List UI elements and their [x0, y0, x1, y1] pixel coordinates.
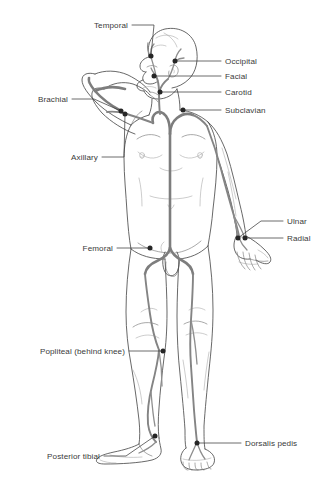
- dot-popliteal: [161, 349, 166, 354]
- dot-occipital: [173, 59, 178, 64]
- dot-ulnar: [236, 236, 241, 241]
- figure-caption: [2, 470, 332, 479]
- label-popliteal: Popliteal (behind knee): [40, 347, 125, 356]
- label-ulnar: Ulnar: [287, 217, 307, 226]
- leader-posterior-tibial: [104, 436, 155, 456]
- label-temporal: Temporal: [94, 21, 128, 30]
- dot-carotid: [158, 90, 163, 95]
- label-occipital: Occipital: [225, 57, 257, 66]
- anatomy-illustration: .o { fill:none; stroke:#4d4d4d; stroke-w…: [0, 0, 333, 479]
- dot-posterior-tibial: [153, 434, 158, 439]
- leader-brachial: [72, 99, 121, 111]
- label-brachial: Brachial: [38, 95, 68, 104]
- label-subclavian: Subclavian: [225, 106, 266, 115]
- dot-radial: [243, 236, 248, 241]
- label-carotid: Carotid: [225, 88, 252, 97]
- dot-brachial: [119, 109, 124, 114]
- dot-dorsalis-pedis: [195, 441, 200, 446]
- dot-facial: [152, 74, 157, 79]
- label-femoral: Femoral: [83, 244, 113, 253]
- dot-subclavian: [181, 108, 186, 113]
- diagram-canvas: .o { fill:none; stroke:#4d4d4d; stroke-w…: [0, 0, 333, 479]
- label-dorsalis-pedis: Dorsalis pedis: [245, 439, 297, 448]
- dot-femoral: [148, 246, 153, 251]
- label-facial: Facial: [225, 72, 247, 81]
- dot-axillary: [123, 112, 128, 117]
- label-posterior-tibial: Posterior tibial: [47, 452, 100, 461]
- label-radial: Radial: [287, 234, 311, 243]
- label-axillary: Axillary: [71, 153, 98, 162]
- dot-temporal: [149, 54, 154, 59]
